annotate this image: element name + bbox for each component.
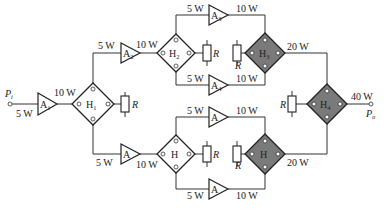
r-label-h3: R xyxy=(234,60,241,71)
r-label-lower-split: R xyxy=(212,149,219,160)
a-lower-mid-label: A xyxy=(123,149,131,160)
h3-out-power: 20 W xyxy=(287,41,309,52)
a4-in-power: 5 W xyxy=(187,73,204,84)
a3-out-power: 10 W xyxy=(236,3,258,14)
power-combiner-diagram: Pi 5 W 40 W Po A1 A2 A3 A4 A A A H1 H2 H… xyxy=(0,0,384,211)
r-label-h2: R xyxy=(212,48,219,59)
resistor-h3 xyxy=(233,45,241,61)
input-power: 5 W xyxy=(16,108,33,119)
a4-out-power: 10 W xyxy=(236,73,258,84)
r-label-h1: R xyxy=(131,99,138,110)
resistor-h4 xyxy=(288,96,296,112)
output-terminal xyxy=(369,102,373,106)
a3-in-power: 5 W xyxy=(187,3,204,14)
input-label: Pi xyxy=(4,88,13,100)
output-power: 40 W xyxy=(351,91,373,102)
a-lower-bottom-label: A xyxy=(211,184,219,195)
lower-a-in-power: 5 W xyxy=(96,157,113,168)
h-lower-split-label: H xyxy=(171,149,178,160)
resistor-lower-split xyxy=(203,146,211,162)
lower-a-out-power: 10 W xyxy=(136,159,158,170)
h-lower-comb-label: H xyxy=(260,149,267,160)
r-label-lower-comb: R xyxy=(234,160,241,171)
a2-out-power: 10 W xyxy=(136,39,158,50)
lower-top-a-in-power: 5 W xyxy=(187,105,204,116)
output-label: Po xyxy=(365,108,376,120)
lower-bottom-a-in-power: 5 W xyxy=(187,190,204,201)
a1-out-power: 10 W xyxy=(54,87,76,98)
lower-bottom-a-out-power: 10 W xyxy=(236,190,258,201)
resistor-h1 xyxy=(121,96,129,112)
a-lower-top-label: A xyxy=(211,112,219,123)
lower-top-a-out-power: 10 W xyxy=(236,105,258,116)
r-label-h4: R xyxy=(279,99,286,110)
input-terminal xyxy=(8,102,12,106)
resistor-h2 xyxy=(203,45,211,61)
a2-in-power: 5 W xyxy=(98,40,115,51)
lower-comb-out-power: 20 W xyxy=(287,157,309,168)
